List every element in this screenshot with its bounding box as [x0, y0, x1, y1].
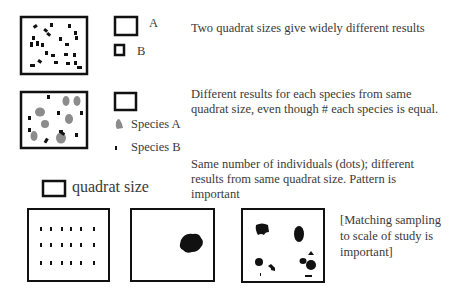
caption-row2-line2: quadrat size, even though # each species…	[191, 102, 438, 117]
quadrat-size-legend-box	[43, 181, 65, 196]
random-distribution-plot	[21, 17, 87, 74]
quadrat-box-row2	[115, 93, 136, 110]
caption-row2-line1: Different results for each species from …	[191, 87, 438, 102]
label-quadrat-size: quadrat size	[72, 178, 149, 196]
caption-row2: Different results for each species from …	[191, 87, 438, 117]
note-line2: to scale of study is	[340, 228, 441, 244]
caption-row1: Two quadrat sizes give widely different …	[191, 21, 425, 36]
caption-row3-line1: Same number of individuals (dots); diffe…	[191, 157, 414, 172]
uniform-distribution-plot	[28, 209, 109, 281]
caption-row3-line3: important	[191, 187, 414, 202]
note-line3: important]	[340, 244, 441, 260]
species-b-legend-icon	[115, 146, 117, 150]
note-line1: [Matching sampling	[340, 212, 441, 228]
two-species-plot	[21, 92, 87, 148]
label-b: B	[137, 44, 145, 58]
single-clump-plot	[131, 209, 214, 281]
caption-row3: Same number of individuals (dots); diffe…	[191, 157, 414, 202]
note-matching-scale: [Matching sampling to scale of study is …	[340, 212, 441, 260]
label-species-a: Species A	[131, 117, 181, 131]
label-species-b: Species B	[131, 140, 181, 154]
species-a-legend-icon	[116, 119, 123, 129]
clustered-distribution-plot	[242, 209, 324, 282]
caption-row3-line2: results from same quadrat size. Pattern …	[191, 172, 414, 187]
label-a: A	[149, 16, 158, 30]
quadrat-b-box	[115, 45, 124, 55]
quadrat-a-box	[115, 17, 137, 35]
